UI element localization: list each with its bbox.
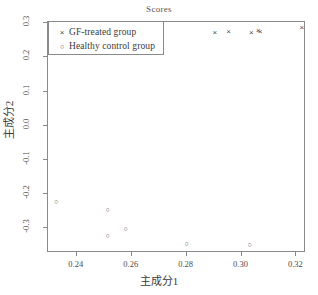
legend-item-healthy-control: ○ Healthy control group — [49, 39, 163, 53]
legend-marker-circle-icon: ○ — [55, 43, 69, 50]
cross-marker-icon: × — [249, 29, 254, 37]
cross-marker-icon: × — [300, 24, 305, 32]
x-axis-tick — [186, 252, 187, 256]
x-axis-tick-label: 0.24 — [68, 259, 83, 269]
y-axis-tick-label: 0.0 — [13, 119, 39, 129]
legend-label-healthy-control: Healthy control group — [69, 41, 155, 51]
x-axis-tick — [295, 252, 296, 256]
circle-marker-icon: ○ — [184, 240, 188, 248]
y-axis-tick-label: -0.3 — [13, 221, 39, 231]
legend-label-gf-treated: GF-treated group — [69, 27, 136, 37]
circle-marker-icon: ○ — [105, 232, 109, 240]
x-axis-label: 主成分1 — [0, 272, 318, 288]
y-axis-tick-label: 0.3 — [13, 16, 39, 26]
cross-marker-icon: × — [226, 28, 231, 36]
x-axis-tick-label: 0.30 — [233, 259, 248, 269]
x-axis-tick — [76, 252, 77, 256]
scatter-plot-figure: Scores ××××××○○○○○○ 0.240.260.280.300.32… — [0, 0, 318, 295]
data-points-layer: ××××××○○○○○○ — [48, 22, 304, 251]
legend-item-gf-treated: × GF-treated group — [49, 25, 163, 39]
y-axis-tick-label: 0.2 — [13, 50, 39, 60]
x-axis-tick-label: 0.26 — [123, 259, 138, 269]
circle-marker-icon: ○ — [105, 206, 109, 214]
x-axis-tick — [241, 252, 242, 256]
y-axis-tick — [43, 91, 47, 92]
x-axis-tick — [131, 252, 132, 256]
cross-marker-icon: × — [213, 29, 218, 37]
cross-marker-icon: × — [258, 28, 263, 36]
circle-marker-icon: ○ — [54, 198, 58, 206]
x-axis-tick-label: 0.28 — [178, 259, 193, 269]
y-axis-tick — [43, 22, 47, 23]
chart-legend: × GF-treated group ○ Healthy control gro… — [48, 21, 164, 55]
plot-area: ××××××○○○○○○ — [47, 21, 305, 252]
y-axis-tick — [43, 227, 47, 228]
y-axis-tick-label: 0.1 — [13, 85, 39, 95]
circle-marker-icon: ○ — [248, 241, 252, 249]
y-axis-tick — [43, 125, 47, 126]
y-axis-tick-label: -0.1 — [13, 153, 39, 163]
y-axis-tick-label: -0.2 — [13, 187, 39, 197]
circle-marker-icon: ○ — [124, 225, 128, 233]
y-axis-tick — [43, 193, 47, 194]
legend-marker-x-icon: × — [55, 28, 69, 37]
page-title: Scores — [0, 4, 318, 14]
x-axis-tick-label: 0.32 — [288, 259, 303, 269]
y-axis-label: 主成分2 — [0, 88, 16, 152]
y-axis-tick — [43, 56, 47, 57]
y-axis-tick — [43, 159, 47, 160]
